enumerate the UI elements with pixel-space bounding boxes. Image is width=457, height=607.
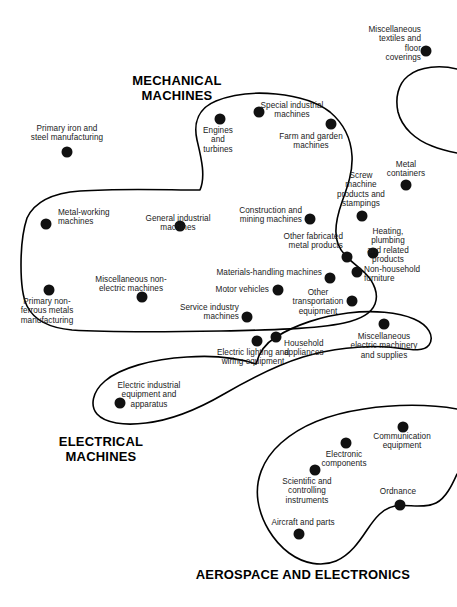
industry-node-dot[interactable] — [341, 438, 352, 449]
industry-node-dot[interactable] — [44, 285, 55, 296]
group-heading: MECHANICAL MACHINES — [132, 74, 221, 103]
industry-node-label: Electric industrial equipment and appara… — [118, 381, 181, 409]
industry-node-label: Electronic components — [321, 450, 366, 469]
industry-node-label: Service industry machines — [180, 303, 239, 322]
industry-node-dot[interactable] — [252, 336, 263, 347]
industry-node-dot[interactable] — [347, 296, 358, 307]
industry-node-dot[interactable] — [242, 312, 253, 323]
industry-node-label: Ordnance — [380, 487, 416, 496]
industry-node-label: Primary iron and steel manufacturing — [31, 124, 103, 143]
industry-node-label: Miscellaneous non- electric machines — [95, 275, 166, 294]
industry-node-label: Metal-working machines — [58, 208, 110, 227]
industry-node-dot[interactable] — [326, 119, 337, 130]
industry-node-label: Electric lighting and wiring equipment — [217, 348, 289, 367]
industry-node-dot[interactable] — [294, 529, 305, 540]
industry-node-dot[interactable] — [215, 114, 226, 125]
industry-node-label: Metal containers — [387, 160, 425, 179]
industry-node-label: Miscellaneous electric machinery and sup… — [351, 332, 418, 360]
industry-cluster-diagram: MECHANICAL MACHINESELECTRICAL MACHINESAE… — [0, 0, 457, 607]
industry-node-label: General industrial machines — [145, 214, 210, 233]
industry-node-dot[interactable] — [271, 332, 282, 343]
industry-node-label: Scientific and controlling instruments — [282, 477, 331, 505]
industry-node-dot[interactable] — [398, 422, 409, 433]
group-heading: ELECTRICAL MACHINES — [59, 435, 143, 464]
industry-node-dot[interactable] — [305, 214, 316, 225]
industry-node-dot[interactable] — [352, 267, 363, 278]
group-heading: AEROSPACE AND ELECTRONICS — [196, 568, 410, 583]
industry-node-dot[interactable] — [273, 285, 284, 296]
industry-node-label: Heating, plumbing and related products — [367, 227, 409, 265]
industry-node-label: Screw machine products and stampings — [337, 171, 385, 209]
industry-node-dot[interactable] — [325, 273, 336, 284]
industry-node-dot[interactable] — [395, 500, 406, 511]
industry-node-dot[interactable] — [342, 252, 353, 263]
industry-node-label: Miscellaneous textiles and floor coverin… — [368, 25, 421, 63]
industry-node-label: Engines and turbines — [203, 126, 233, 154]
industry-node-label: Other fabricated metal products — [283, 232, 343, 251]
industry-node-dot[interactable] — [357, 211, 368, 222]
industry-node-label: Farm and garden machines — [279, 132, 343, 151]
industry-node-label: Construction and mining machines — [239, 206, 302, 225]
industry-node-dot[interactable] — [401, 180, 412, 191]
miscellaneous-textiles-outline — [397, 67, 457, 153]
industry-node-label: Special industrial machines — [261, 101, 324, 120]
industry-node-label: Non-household furniture — [364, 265, 420, 284]
industry-node-dot[interactable] — [62, 147, 73, 158]
industry-node-dot[interactable] — [41, 219, 52, 230]
industry-node-label: Aircraft and parts — [271, 518, 334, 527]
industry-node-dot[interactable] — [379, 319, 390, 330]
industry-node-label: Materials-handling machines — [216, 268, 322, 277]
industry-node-label: Communication equipment — [373, 432, 431, 451]
industry-node-label: Primary non- ferrous metals manufacturin… — [21, 297, 74, 325]
industry-node-label: Motor vehicles — [216, 285, 269, 294]
industry-node-label: Household appliances — [284, 339, 324, 358]
industry-node-dot[interactable] — [310, 465, 321, 476]
industry-node-dot[interactable] — [421, 46, 432, 57]
industry-node-label: Other transportation equipment — [293, 288, 344, 316]
